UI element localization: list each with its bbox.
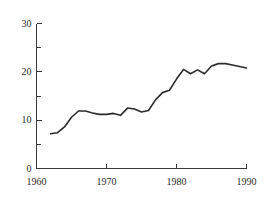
y-tick-label-10: 10 (12, 115, 32, 125)
axes-group (37, 24, 247, 169)
line-chart: 0102030 1960197019801990 (0, 0, 266, 200)
y-tick-label-20: 20 (12, 67, 32, 77)
y-tick-label-0: 0 (12, 164, 32, 174)
data-line-series-1 (51, 64, 247, 134)
x-tick-label-1980: 1980 (161, 177, 193, 187)
axis-frame (37, 24, 247, 169)
x-axis-ticks (107, 164, 247, 169)
x-tick-label-1970: 1970 (91, 177, 123, 187)
y-axis-ticks (37, 24, 42, 145)
x-tick-label-1960: 1960 (21, 177, 53, 187)
data-series-group (51, 64, 247, 134)
plot-area (0, 0, 266, 200)
y-tick-label-30: 30 (12, 19, 32, 29)
x-tick-label-1990: 1990 (231, 177, 263, 187)
